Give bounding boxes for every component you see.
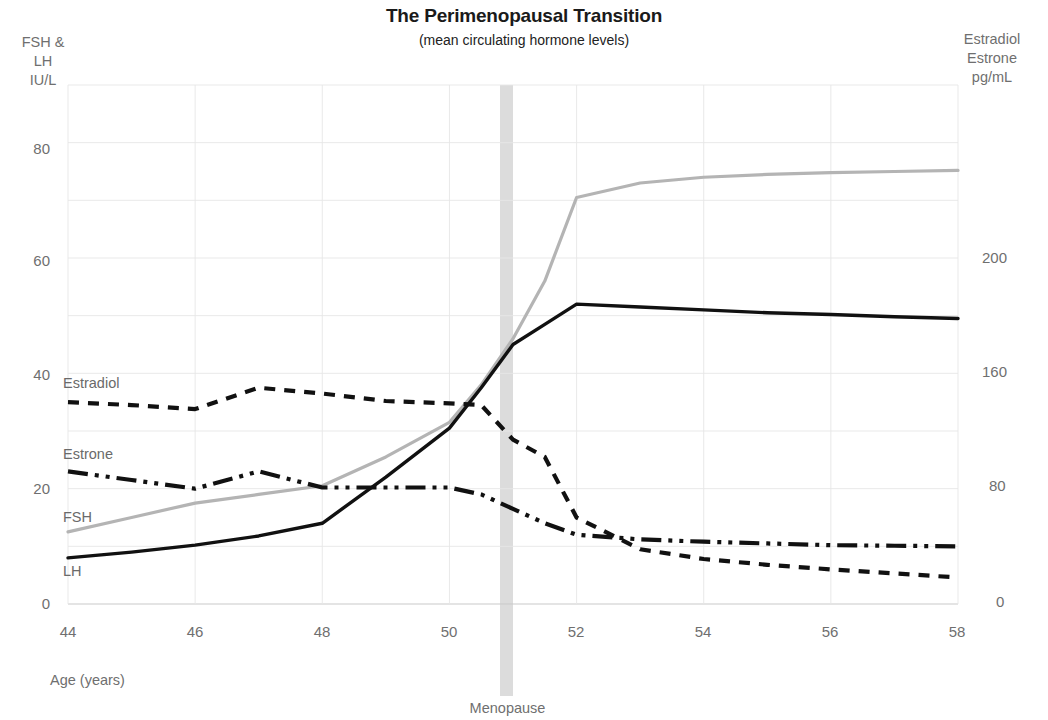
series-line-estradiol [68,388,958,578]
right-axis-title: Estradiol Estrone pg/mL [942,30,1042,87]
y-left-tick-0: 0 [10,595,50,612]
x-tick-54: 54 [679,623,727,640]
x-tick-58: 58 [933,623,981,640]
left-axis-title: FSH & LH IU/L [6,33,80,90]
chart-subtitle: (mean circulating hormone levels) [0,32,1048,48]
y-left-tick-20: 20 [10,480,50,497]
y-right-tick-0: 0 [996,593,1042,610]
x-tick-46: 46 [171,623,219,640]
y-right-tick-80: 80 [989,477,1035,494]
series-label-estrone: Estrone [63,446,113,462]
plot-area [68,85,958,604]
y-right-tick-160: 160 [982,363,1028,380]
series-line-estrone [68,471,958,546]
y-right-tick-200: 200 [982,249,1028,266]
x-tick-44: 44 [44,623,92,640]
x-axis-title: Age (years) [50,672,125,688]
series-label-fsh: FSH [63,509,92,525]
series-label-lh: LH [63,563,82,579]
series-label-estradiol: Estradiol [63,375,119,391]
menopause-label: Menopause [435,700,580,716]
y-left-tick-40: 40 [10,366,50,383]
y-left-tick-80: 80 [10,140,50,157]
x-tick-52: 52 [552,623,600,640]
series-line-fsh [68,170,958,532]
y-left-tick-60: 60 [10,252,50,269]
chart-container: The Perimenopausal Transition (mean circ… [0,0,1048,720]
x-tick-48: 48 [298,623,346,640]
chart-title: The Perimenopausal Transition [0,5,1048,27]
x-tick-50: 50 [425,623,473,640]
plot-svg [68,85,958,604]
series-lines [68,170,958,577]
x-tick-56: 56 [806,623,854,640]
